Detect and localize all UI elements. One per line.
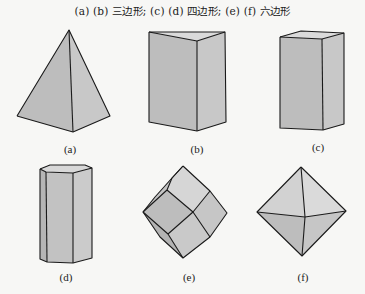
figure-a-triangular-pyramid [17, 30, 110, 132]
figure-c-rectangular-prism [280, 31, 344, 130]
figure-f-octahedron [257, 167, 346, 256]
figure-d-label: (d) [60, 271, 73, 284]
figure-b-label: (b) [191, 143, 204, 156]
figure-e-rhombic-dodecahedron [143, 166, 227, 258]
figure-a-label: (a) [64, 143, 77, 156]
figure-b-triangular-prism [149, 32, 226, 131]
polyhedra-diagram: (a) (b) (c) (d) [0, 0, 365, 294]
figure-f-label: (f) [298, 271, 309, 284]
figure-c-label: (c) [312, 141, 325, 154]
figure-e-label: (e) [183, 271, 196, 284]
figure-d-hexagonal-prism [40, 165, 92, 263]
